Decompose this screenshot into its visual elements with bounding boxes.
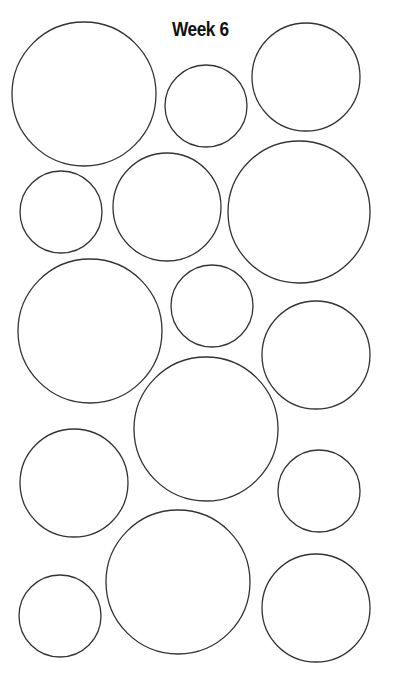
circle-shape-1 xyxy=(12,22,156,166)
circle-shape-11 xyxy=(20,429,128,537)
circle-shape-15 xyxy=(262,554,370,662)
circle-shape-8 xyxy=(171,265,253,347)
circle-shape-12 xyxy=(278,450,360,532)
circle-shape-2 xyxy=(165,65,247,147)
circle-shape-14 xyxy=(19,575,101,657)
circle-shape-9 xyxy=(262,301,370,409)
page-title: Week 6 xyxy=(172,18,229,39)
circle-shape-5 xyxy=(113,153,221,261)
circle-shape-13 xyxy=(106,510,250,654)
circle-shape-6 xyxy=(228,141,370,283)
circle-shape-10 xyxy=(134,357,278,501)
circle-shape-4 xyxy=(20,171,102,253)
circle-group xyxy=(12,22,370,662)
circle-shape-3 xyxy=(252,23,360,131)
circle-shape-7 xyxy=(18,259,162,403)
circle-canvas xyxy=(0,0,394,681)
